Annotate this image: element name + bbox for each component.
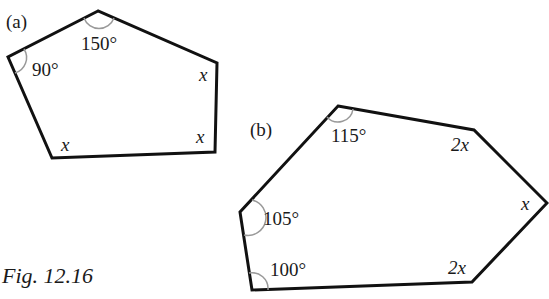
- angle-bottom-right-b: 2x: [448, 257, 467, 278]
- label-b: (b): [250, 119, 272, 141]
- angle-right-a: x: [198, 64, 208, 85]
- label-a: (a): [6, 11, 27, 33]
- angle-top-a: 150°: [81, 33, 117, 54]
- angle-bottom-right-a: x: [195, 126, 205, 147]
- polygon-b: (b) 115° 2x x 2x 100° 105°: [240, 106, 547, 290]
- angle-left-b: 105°: [263, 208, 299, 229]
- angle-right-b: x: [520, 193, 530, 214]
- angle-left-a: 90°: [32, 59, 59, 80]
- angle-bottom-left-a: x: [60, 134, 70, 155]
- figure-canvas: (a) 150° 90° x x x (b) 115° 2x x 2x 100°…: [0, 0, 549, 299]
- polygon-a: (a) 150° 90° x x x: [6, 11, 217, 158]
- angle-top-b: 115°: [331, 125, 366, 146]
- angle-top-right-b: 2x: [451, 134, 470, 155]
- angle-bottom-left-b: 100°: [270, 259, 306, 280]
- angle-arc-top: [84, 18, 114, 28]
- figure-caption: Fig. 12.16: [1, 263, 93, 288]
